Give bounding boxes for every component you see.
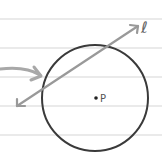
paper-lines (0, 19, 162, 135)
center-label: P (100, 93, 106, 104)
center-point (94, 96, 98, 100)
geometry-diagram: P ℓ (0, 0, 162, 159)
secant-line (17, 26, 138, 106)
line-label: ℓ (140, 18, 148, 37)
